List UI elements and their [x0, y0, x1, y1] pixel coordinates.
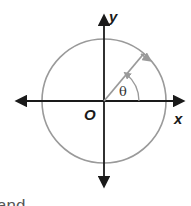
partial-body-text: and	[0, 196, 25, 206]
origin-label: O	[84, 106, 96, 123]
angle-arc	[127, 74, 140, 101]
unit-circle-diagram: y x O θ and	[0, 0, 191, 206]
angle-theta-label: θ	[119, 84, 127, 99]
y-axis-label: y	[108, 8, 118, 25]
x-axis-label: x	[173, 110, 183, 127]
